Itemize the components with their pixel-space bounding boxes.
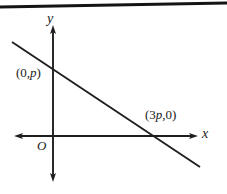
page-border-rule bbox=[0, 3, 227, 7]
y-intercept-label: (0,p) bbox=[16, 66, 41, 79]
x-axis-label: x bbox=[202, 127, 208, 141]
x-intercept-prefix: (3 bbox=[145, 107, 156, 122]
x-intercept-label: (3p,0) bbox=[145, 108, 176, 121]
y-intercept-prefix: (0, bbox=[16, 65, 30, 80]
y-intercept-suffix: ) bbox=[37, 65, 41, 80]
origin-label: O bbox=[37, 139, 46, 152]
y-axis-label: y bbox=[47, 12, 53, 26]
x-intercept-suffix: ,0) bbox=[162, 107, 176, 122]
coordinate-plane-figure: y x O (0,p) (3p,0) bbox=[0, 0, 227, 194]
graph-canvas bbox=[0, 0, 227, 194]
